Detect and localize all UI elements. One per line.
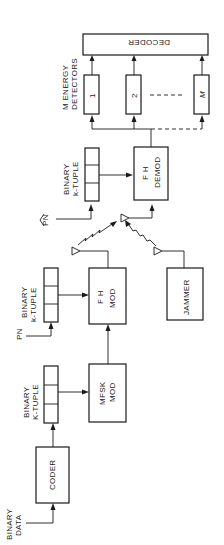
arrow-icon [110, 221, 117, 227]
arrow-icon [89, 204, 94, 211]
arrow-icon [150, 204, 155, 211]
svg-text:F H: F H [141, 166, 150, 180]
pn-tx-line [26, 329, 51, 336]
svg-text:M: M [198, 91, 207, 98]
arrow-icon [90, 115, 95, 122]
jammer-radio-link [129, 225, 156, 246]
tuple3-register [85, 148, 99, 201]
fh-mod-block: F H MOD [89, 268, 126, 324]
decoder-block: DECODER [83, 34, 208, 55]
svg-text:k-TUPLE: k-TUPLE [29, 287, 38, 322]
fh-demod-block: F H DEMOD [134, 147, 168, 200]
svg-text:k-TUPLE: k-TUPLE [71, 161, 80, 196]
jammer-antenna-icon [154, 247, 162, 255]
svg-text:BINARY: BINARY [20, 286, 29, 318]
arrow-icon [82, 390, 89, 395]
svg-text:CODER: CODER [48, 460, 57, 490]
svg-text:DECODER: DECODER [128, 38, 170, 47]
arrow-icon [106, 324, 111, 331]
detectors-label: M ENERGY DETECTORS [61, 58, 79, 110]
svg-text:DETECTORS: DETECTORS [70, 58, 79, 110]
fhmod-to-antenna-line [80, 251, 108, 268]
block-diagram: BINARY DATA CODER BINARY K-TUPLE MFSK MO… [0, 0, 224, 545]
svg-text:BINARY: BINARY [5, 508, 14, 540]
tx-antenna-icon [72, 247, 80, 255]
detector-m: M [194, 75, 209, 114]
tuple3-label: BINARY k-TUPLE [62, 161, 80, 196]
svg-text:F H: F H [96, 290, 105, 304]
svg-text:PN: PN [41, 214, 50, 226]
tx-radio-link [78, 224, 112, 245]
arrow-icon [49, 322, 54, 329]
jammer-block: JAMMER [167, 268, 203, 320]
arrow-icon [126, 173, 133, 178]
mfsk-mod-block: MFSK MOD [89, 364, 126, 422]
arrow-icon [132, 55, 137, 61]
detector-1: 1 [84, 75, 99, 114]
svg-text:1: 1 [88, 93, 97, 98]
arrow-icon [82, 293, 89, 298]
arrow-icon [90, 55, 95, 61]
svg-text:DATA: DATA [14, 514, 23, 536]
arrow-icon [200, 115, 205, 122]
svg-text:DEMOD: DEMOD [153, 157, 162, 188]
detector-2: 2 [126, 75, 141, 114]
pn-tx-label: PN [15, 328, 24, 340]
svg-text:2: 2 [130, 93, 139, 98]
svg-text:BINARY: BINARY [22, 386, 31, 418]
svg-text:MOD: MOD [108, 382, 117, 402]
svg-text:K-TUPLE: K-TUPLE [31, 384, 40, 420]
pn-rx-label: PN [40, 214, 50, 226]
arrow-icon [51, 503, 56, 510]
binary-data-label: BINARY DATA [5, 508, 23, 540]
svg-text:BINARY: BINARY [62, 163, 71, 195]
arrow-icon [132, 115, 137, 122]
svg-text:M ENERGY: M ENERGY [61, 65, 70, 110]
binary-data-line [26, 510, 53, 523]
pn-rx-line [56, 211, 91, 219]
svg-text:MOD: MOD [108, 288, 117, 308]
tuple2-register [44, 268, 58, 322]
svg-text:JAMMER: JAMMER [182, 279, 191, 315]
arrow-icon [51, 423, 56, 430]
svg-text:MFSK: MFSK [98, 381, 107, 405]
coder-block: CODER [36, 447, 69, 503]
arrow-icon [200, 55, 205, 61]
rx-antenna-to-demod-line [129, 211, 152, 218]
tuple1-label: BINARY K-TUPLE [22, 384, 40, 420]
rx-antenna-icon [121, 214, 129, 222]
tuple2-label: BINARY k-TUPLE [20, 286, 38, 322]
jammer-to-antenna-line [162, 251, 184, 268]
tuple1-register [44, 366, 58, 423]
